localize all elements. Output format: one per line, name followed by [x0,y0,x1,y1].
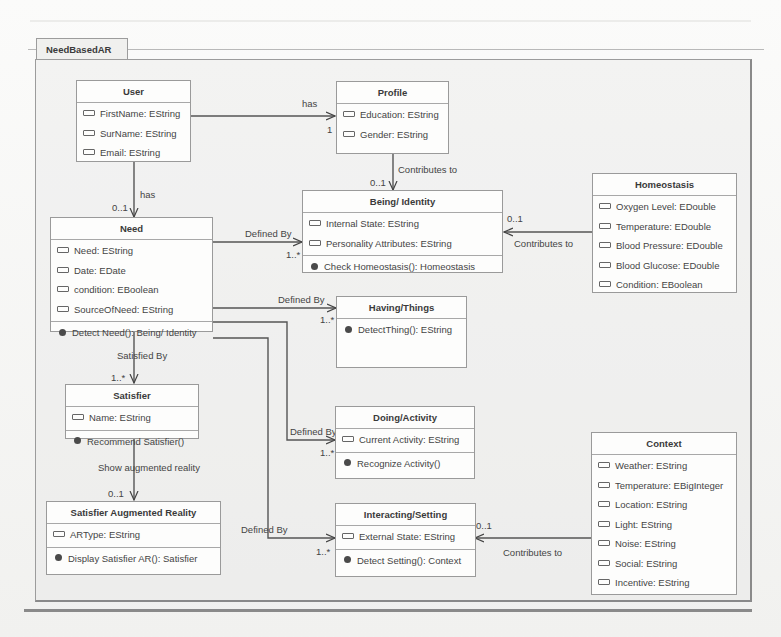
mult-profile-being: 0..1 [370,177,386,188]
label-user-need: has [140,189,155,200]
attribute-icon [598,501,610,507]
operations: Recommend Satisfier() [66,431,198,454]
operations: Display Satisfier AR(): Satisfier [47,548,220,571]
attribute-row: Temperature: EBigInteger [592,476,736,496]
class-title: Profile [337,82,448,104]
mult-need-doing: 1..* [320,447,334,458]
class-doing-activity[interactable]: Doing/Activity Current Activity: EString… [335,406,475,479]
operations: Detect Setting(): Context [336,550,475,573]
attribute-icon [57,286,69,292]
attribute-icon [309,240,321,246]
class-interacting-setting[interactable]: Interacting/Setting External State: EStr… [335,503,476,577]
class-title: Having/Things [337,297,466,319]
class-title: Being/ Identity [303,191,502,213]
attribute-row: Condition: EBoolean [593,275,736,295]
attribute-row: Name: EString [66,408,198,428]
attribute-icon [57,267,69,273]
operations: DetectThing(): EString [337,319,466,342]
bottom-rule [24,609,752,612]
class-title: Interacting/Setting [336,504,475,526]
class-title: Satisfier [66,385,198,407]
label-need-having: Defined By [278,294,324,305]
class-homeostasis[interactable]: Homeostasis Oxygen Level: EDouble Temper… [592,173,737,293]
operation-row: Recognize Activity() [336,454,474,474]
attribute-icon [599,223,611,229]
attributes: Need: EString Date: EDate condition: EBo… [51,240,212,322]
attributes: Name: EString [66,407,198,431]
mult-homeostasis-being: 0..1 [507,213,523,224]
label-need-being: Defined By [245,228,291,239]
attribute-icon [83,110,95,116]
mult-need-satisfier: 1..* [111,372,125,383]
attributes: Current Activity: EString [336,429,474,453]
operation-icon [344,556,351,563]
attribute-row: Email: EString [77,143,190,163]
attribute-icon [598,462,610,468]
class-satisfier[interactable]: Satisfier Name: EString Recommend Satisf… [65,384,199,439]
line-need-doing [213,322,335,440]
attribute-row: External State: EString [336,527,475,547]
class-being-identity[interactable]: Being/ Identity Internal State: EString … [302,190,503,273]
attribute-row: Temperature: EDouble [593,217,736,237]
attribute-icon [57,247,69,253]
attribute-icon [343,131,355,137]
attribute-row: Weather: EString [592,456,736,476]
attribute-row: Current Activity: EString [336,430,474,450]
class-need[interactable]: Need Need: EString Date: EDate condition… [50,217,213,332]
operation-icon [74,437,81,444]
class-title: Homeostasis [593,174,736,196]
attributes: External State: EString [336,526,475,550]
attribute-icon [342,533,354,539]
class-title: User [77,81,190,103]
operation-row: Display Satisfier AR(): Satisfier [47,549,220,569]
operation-row: DetectThing(): EString [337,320,466,340]
attribute-icon [57,306,69,312]
class-user[interactable]: User FirstName: EString SurName: EString… [76,80,191,162]
class-satisfier-augmented-reality[interactable]: Satisfier Augmented Reality ARType: EStr… [46,501,221,575]
attribute-row: Date: EDate [51,261,212,281]
mult-need-having: 1..* [320,314,334,325]
attribute-row: SurName: EString [77,124,190,144]
operation-row: Recommend Satisfier() [66,432,198,452]
attributes: Weather: EString Temperature: EBigIntege… [592,455,736,595]
attribute-icon [599,281,611,287]
attribute-row: Oxygen Level: EDouble [593,197,736,217]
mult-need-interacting: 1..* [316,546,330,557]
attribute-row: Education: EString [337,105,448,125]
operation-icon [55,554,62,561]
operation-icon [311,263,318,270]
mult-satisfier-ar: 0..1 [108,488,124,499]
attribute-row: Internal State: EString [303,214,502,234]
operation-row: Detect Need(): Being/ Identity [51,323,212,343]
attribute-row: SourceOfNeed: EString [51,300,212,320]
label-profile-being: Contributes to [398,164,457,175]
attributes: Internal State: EString Personality Attr… [303,213,502,256]
class-title: Need [51,218,212,240]
attribute-icon [599,242,611,248]
attribute-icon [598,579,610,585]
operation-icon [345,326,352,333]
operations: Check Homeostasis(): Homeostasis [303,256,502,279]
attributes: Oxygen Level: EDouble Temperature: EDoub… [593,196,736,297]
mult-user-need: 0..1 [112,202,128,213]
attribute-icon [72,414,84,420]
attribute-row: Incentive: EString [592,573,736,593]
attributes: FirstName: EString SurName: EString Emai… [77,103,190,165]
label-need-doing: Defined By [290,426,336,437]
mult-user-profile: 1 [327,124,332,135]
class-title: Context [592,433,736,455]
operation-row: Detect Setting(): Context [336,551,475,571]
attribute-row: Gender: EString [337,125,448,145]
attribute-row: Social: EString [592,554,736,574]
label-need-satisfier: Satisfied By [117,350,167,361]
class-context[interactable]: Context Weather: EString Temperature: EB… [591,432,737,595]
label-need-interacting: Defined By [241,524,287,535]
line-need-interacting [213,338,335,538]
attribute-row: Personality Attributes: EString [303,234,502,254]
class-title: Doing/Activity [336,407,474,429]
class-having-things[interactable]: Having/Things DetectThing(): EString [336,296,467,368]
attribute-row: Blood Pressure: EDouble [593,236,736,256]
class-profile[interactable]: Profile Education: EString Gender: EStri… [336,81,449,154]
operation-row: Check Homeostasis(): Homeostasis [303,257,502,277]
attribute-icon [53,531,65,537]
